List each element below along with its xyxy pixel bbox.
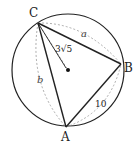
side-label-a: a [81, 28, 87, 39]
center-point [66, 68, 70, 72]
side-label-b: b [37, 74, 43, 85]
vertex-label-B: B [124, 61, 133, 75]
vertex-label-A: A [60, 130, 70, 144]
vertex-label-C: C [29, 6, 38, 20]
radius-label: 3√5 [55, 44, 72, 54]
triangle-in-circle-diagram: C B A a b 10 3√5 [0, 0, 137, 144]
side-AB [66, 64, 121, 127]
side-label-c: 10 [95, 99, 107, 109]
